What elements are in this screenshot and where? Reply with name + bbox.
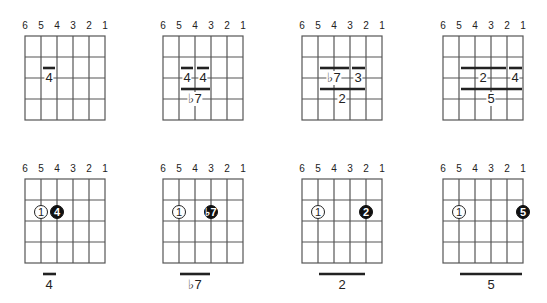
interval-label: ♭7: [326, 71, 341, 85]
target-note-dot: 4: [50, 205, 64, 219]
target-note-dot: 5: [516, 205, 530, 219]
interval-diagram-bottom-3: 6 5 4 3 2 1 1 2 2: [292, 163, 422, 303]
fretboard-grid: [15, 20, 145, 160]
interval-diagram-top-2: 6 5 4 3 2 1 4 4 ♭7: [153, 20, 283, 160]
interval-label: 3: [353, 71, 362, 85]
interval-label: 4: [510, 71, 519, 85]
interval-label: 4: [44, 71, 53, 85]
root-note-dot: 1: [172, 205, 186, 219]
interval-diagram-top-3: 6 5 4 3 2 1 ♭7 3 2: [292, 20, 422, 160]
interval-diagram-top-1: 6 5 4 3 2 1 4: [15, 20, 145, 160]
root-note-dot: 1: [34, 205, 48, 219]
fretboard-grid: [153, 20, 283, 160]
interval-caption: 5: [487, 278, 494, 292]
target-note-dot: 2: [359, 205, 373, 219]
fretboard-grid: [153, 163, 283, 303]
root-note-dot: 1: [452, 205, 466, 219]
interval-caption: 4: [45, 278, 52, 292]
interval-caption: ♭7: [188, 278, 201, 292]
interval-label: 4: [198, 71, 207, 85]
fretboard-grid: [15, 163, 145, 303]
interval-diagram-bottom-1: 6 5 4 3 2 1 1 4 4: [15, 163, 145, 303]
interval-diagram-bottom-4: 6 5 4 3 2 1 1 5 5: [433, 163, 547, 303]
interval-label: ♭7: [187, 92, 202, 106]
fretboard-grid: [433, 20, 547, 160]
interval-label: 4: [182, 71, 191, 85]
target-note-dot: ♭7: [204, 205, 218, 219]
fretboard-grid: [292, 20, 422, 160]
root-note-dot: 1: [311, 205, 325, 219]
interval-label: 2: [478, 71, 487, 85]
fretboard-grid: [292, 163, 422, 303]
interval-label: 2: [337, 92, 346, 106]
interval-caption: 2: [338, 278, 345, 292]
interval-label: 5: [486, 92, 495, 106]
interval-diagram-top-4: 6 5 4 3 2 1 2 4 5: [433, 20, 547, 160]
interval-diagram-bottom-2: 6 5 4 3 2 1 1 ♭7 ♭7: [153, 163, 283, 303]
